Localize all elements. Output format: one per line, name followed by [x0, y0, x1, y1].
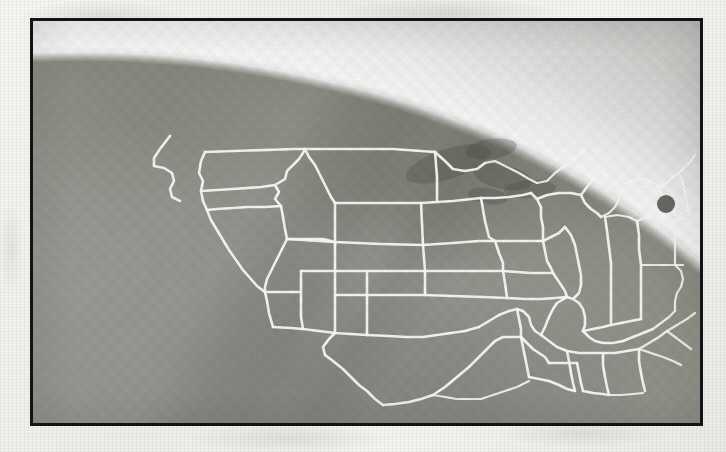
- photograph-frame: [30, 18, 703, 426]
- state-new-england: [675, 155, 695, 221]
- state-kansas: [425, 271, 507, 298]
- state-nebraska: [425, 241, 503, 271]
- state-missouri: [507, 273, 567, 335]
- state-georgia: [609, 349, 645, 395]
- state-washington: [201, 185, 275, 191]
- pacific-coast: [199, 152, 265, 292]
- dark-spot-northeast: [657, 195, 675, 213]
- state-south-dakota: [423, 198, 495, 245]
- state-alabama: [583, 353, 609, 395]
- scanned-page: [0, 0, 726, 452]
- state-arizona: [265, 292, 303, 329]
- state-pennsylvania: [637, 215, 683, 265]
- state-idaho: [275, 149, 305, 239]
- state-oklahoma: [367, 309, 521, 337]
- state-wisconsin: [531, 193, 565, 241]
- state-utah: [301, 242, 335, 301]
- state-iowa: [503, 241, 553, 273]
- state-illinois: [565, 227, 585, 331]
- state-boundaries-overlay: [33, 21, 700, 423]
- state-montana: [305, 149, 421, 203]
- northern-border: [205, 149, 585, 183]
- state-new-mexico: [303, 271, 385, 335]
- alaska-panhandle: [154, 136, 180, 201]
- state-carolinas: [639, 331, 691, 365]
- state-mississippi: [567, 351, 583, 391]
- state-indiana: [583, 217, 611, 331]
- earth-photograph: [33, 21, 700, 423]
- state-virginia: [667, 265, 695, 331]
